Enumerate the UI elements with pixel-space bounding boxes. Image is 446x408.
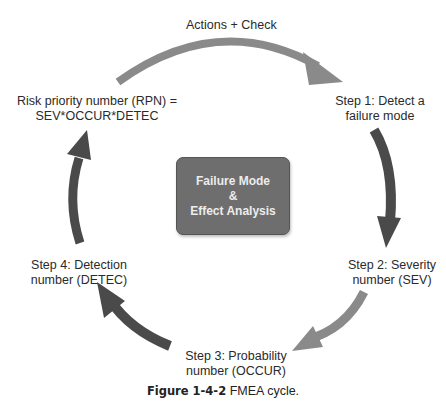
arrow-step3-to-step4 (97, 282, 170, 346)
label-step2: Step 2: Severity number (SEV) (337, 258, 446, 288)
arrow-actions-to-step1 (118, 42, 343, 86)
caption-text: FMEA cycle. (230, 384, 299, 398)
caption-label: Figure 1-4-2 (147, 384, 226, 398)
figure-caption: Figure 1-4-2 FMEA cycle. (0, 384, 446, 398)
label-actions-check: Actions + Check (186, 18, 277, 33)
label-step1: Step 1: Detect a failure mode (320, 94, 440, 124)
label-step4: Step 4: Detection number (DETEC) (24, 258, 134, 288)
label-rpn: Risk priority number (RPN) = SEV*OCCUR*D… (14, 94, 180, 124)
arrow-step1-to-step2 (374, 130, 401, 248)
arrow-step2-to-step3 (292, 292, 364, 351)
center-fmea-box: Failure Mode & Effect Analysis (176, 157, 290, 235)
label-step3: Step 3: Probability number (OCCUR) (176, 349, 296, 379)
arrow-step4-to-rpn (67, 130, 91, 243)
